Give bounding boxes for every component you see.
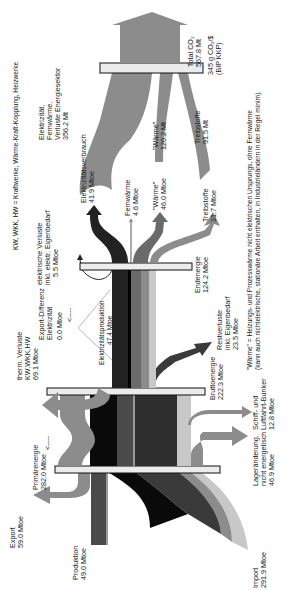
band-darkgray-2 [131, 270, 141, 388]
elektrizitaetsverbrauch-value: 41.9 Mtoe [87, 171, 96, 203]
export-diff-arrow: <---- [65, 308, 74, 322]
elektrizitaetsverbrauch-flow [86, 205, 128, 263]
lageraenderung-flow [191, 426, 248, 466]
footnote-line1: "Wärme" = Heizungs- und Prozesswärme nic… [246, 110, 254, 370]
primaerenergie-value: 282.0 Mtoe [39, 454, 48, 490]
footnote-line2: (kann auch nichtelektrische, stationäre … [254, 91, 262, 370]
band-gray-2 [141, 270, 149, 388]
fernwaerme-value: 4.6 Mtoe [131, 188, 140, 216]
import-value: 291.9 Mtoe [259, 552, 268, 588]
restverluste-value: 23.5 Mtoe [231, 318, 240, 350]
produktion-value: 49.0 Mtoe [79, 548, 88, 580]
co2-treibstoffe-value: 91.5 Mt [201, 120, 210, 144]
elektr-verluste-arrowhead [77, 254, 83, 260]
co2-total-arrow [112, 12, 188, 63]
band-darkgray-1 [117, 395, 133, 466]
band-lightgray-1 [177, 395, 191, 466]
schiff-bunker-flow [188, 406, 252, 425]
band-thin-1 [133, 395, 135, 466]
co2-total-value: 567.8 Mt [194, 39, 203, 67]
elektr-verluste-value: 5.5 Mtoe [51, 249, 60, 277]
lageraenderung-value: 46.9 Mtoe [267, 454, 276, 486]
elektrizitaetsproduktion-label: Elektrizitätsproduktion [98, 300, 106, 365]
band-lightgray-2 [149, 270, 156, 388]
endenergie-bar [80, 263, 192, 270]
band-dark-1 [135, 395, 177, 466]
export-diff-value: 0.0 Mtoe [55, 312, 64, 340]
primaerenergie-bar [55, 466, 220, 473]
legend-kw: KW, WKK, HW = Kraftwerke, Wärme-Kraft-Ko… [12, 62, 20, 250]
band-black-2 [112, 270, 128, 388]
treibstoffe-value: 31.7 Mtoe [209, 190, 218, 222]
export-value: 59.0 Mtoe [16, 516, 25, 548]
waerme-flow [133, 212, 168, 263]
endenergie-value: 124.2 Mtoe [201, 257, 210, 293]
co2-intensity-basis: (BIP KKP) [214, 42, 223, 75]
produktion-flow [91, 470, 106, 545]
co2-elektrizitaet-value: 356.2 Mt [61, 112, 70, 140]
therm-verluste-value: 69.1 Mtoe [31, 348, 40, 380]
restverluste-flow [150, 342, 212, 388]
schiff-value: 12.8 Mtoe [267, 398, 276, 430]
back-arrow-label: <---- [43, 436, 52, 450]
sankey-diagram: KW, WKK, HW = Kraftwerke, Wärme-Kraft-Ko… [0, 0, 292, 590]
elektrizitaetsproduktion-value: 47.4 Mtoe [106, 315, 113, 345]
bruttoenergie-value: 222.3 Mtoe [216, 364, 225, 400]
waerme-value: 46.0 Mtoe [159, 178, 168, 210]
produktion-flow-thin [106, 470, 108, 545]
co2-waerme-value: 120.2 Mt [159, 122, 168, 150]
export-diff-line2: Elektrizität [45, 307, 54, 340]
fernwaerme-arrowhead [129, 218, 133, 222]
bruttoenergie-bar [47, 388, 205, 395]
band-blackline-2 [128, 270, 131, 388]
